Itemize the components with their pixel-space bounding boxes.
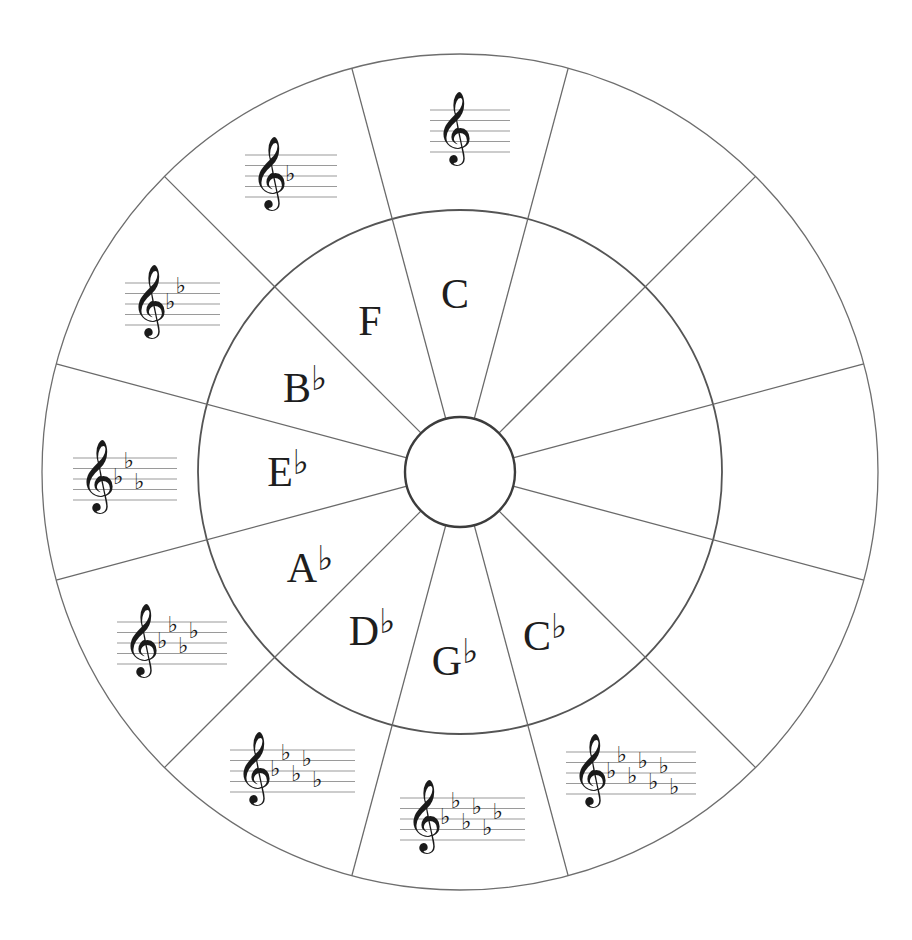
key-signature-staff: 𝄞♭♭ — [125, 263, 220, 339]
flat-sign: ♭ — [461, 809, 471, 834]
flat-sign: ♭ — [291, 761, 301, 786]
flat-sign: ♭ — [451, 788, 461, 813]
flat-sign: ♭ — [627, 763, 637, 788]
treble-clef-icon: 𝄞 — [123, 602, 160, 678]
treble-clef-icon: 𝄞 — [79, 438, 116, 514]
flat-sign: ♭ — [168, 612, 178, 637]
flat-sign: ♭ — [462, 631, 478, 671]
center-hub — [405, 417, 515, 527]
key-signature-staff: 𝄞♭♭♭♭♭ — [230, 730, 355, 806]
key-signature-staff: 𝄞♭ — [245, 135, 337, 211]
flat-sign: ♭ — [281, 740, 291, 765]
flat-sign: ♭ — [493, 799, 503, 824]
flat-sign: ♭ — [124, 448, 134, 473]
flat-sign: ♭ — [312, 767, 322, 792]
treble-clef-icon: 𝄞 — [236, 730, 273, 806]
key-name-label: A♭ — [287, 538, 333, 591]
flat-sign: ♭ — [617, 742, 627, 767]
key-name-label: B♭ — [283, 358, 327, 411]
key-signature-staff: 𝄞♭♭♭♭♭♭♭ — [566, 732, 696, 808]
flat-sign: ♭ — [176, 273, 186, 298]
segment-divider — [513, 364, 864, 458]
flat-sign: ♭ — [659, 753, 669, 778]
key-signature-staff: 𝄞♭♭♭♭ — [117, 602, 227, 678]
flat-sign: ♭ — [157, 628, 167, 653]
flat-sign: ♭ — [270, 756, 280, 781]
segment-divider — [499, 176, 756, 433]
treble-clef-icon: 𝄞 — [406, 778, 443, 854]
key-name-label: C — [441, 271, 469, 317]
key-signature-staff: 𝄞♭♭♭ — [73, 438, 177, 514]
flat-sign: ♭ — [317, 538, 333, 578]
flat-sign: ♭ — [165, 289, 175, 314]
key-name-label: E♭ — [267, 442, 309, 495]
flat-sign: ♭ — [293, 442, 309, 482]
segment-divider — [513, 486, 864, 580]
flat-sign: ♭ — [648, 769, 658, 794]
treble-clef-icon: 𝄞 — [131, 263, 168, 339]
key-name-label: G♭ — [432, 631, 478, 684]
key-signature-staff: 𝄞♭♭♭♭♭♭ — [400, 778, 525, 854]
flat-sign: ♭ — [285, 161, 295, 186]
flat-sign: ♭ — [134, 469, 144, 494]
flat-sign: ♭ — [551, 606, 567, 646]
flat-sign: ♭ — [311, 358, 327, 398]
key-signature-staff: 𝄞 — [430, 90, 510, 166]
key-name-label: C♭ — [523, 606, 567, 659]
flat-sign: ♭ — [482, 815, 492, 840]
key-name-label: D♭ — [349, 601, 395, 654]
flat-sign: ♭ — [440, 804, 450, 829]
flat-sign: ♭ — [638, 748, 648, 773]
treble-clef-icon: 𝄞 — [251, 135, 288, 211]
flat-sign: ♭ — [472, 794, 482, 819]
flat-sign: ♭ — [178, 633, 188, 658]
key-signature-ring: 𝄞𝄞♭𝄞♭♭𝄞♭♭♭𝄞♭♭♭♭𝄞♭♭♭♭♭𝄞♭♭♭♭♭♭𝄞♭♭♭♭♭♭♭ — [73, 90, 696, 854]
treble-clef-icon: 𝄞 — [572, 732, 609, 808]
circle-of-fifths-diagram: CFB♭E♭A♭D♭G♭C♭ 𝄞𝄞♭𝄞♭♭𝄞♭♭♭𝄞♭♭♭♭𝄞♭♭♭♭♭𝄞♭♭♭… — [0, 0, 912, 940]
flat-sign: ♭ — [302, 746, 312, 771]
treble-clef-icon: 𝄞 — [436, 90, 473, 166]
flat-sign: ♭ — [606, 758, 616, 783]
key-name-label: F — [358, 298, 381, 344]
flat-sign: ♭ — [379, 601, 395, 641]
flat-sign: ♭ — [669, 774, 679, 799]
flat-sign: ♭ — [113, 464, 123, 489]
flat-sign: ♭ — [189, 618, 199, 643]
